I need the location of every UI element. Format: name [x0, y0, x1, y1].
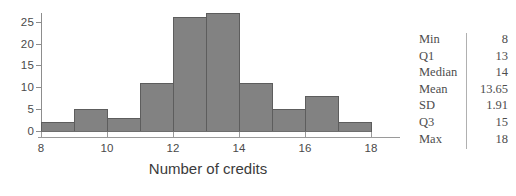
- stat-row: SD1.91: [415, 98, 511, 114]
- histogram-bar: [272, 109, 306, 132]
- x-tick-mark: [173, 132, 174, 137]
- x-axis-title: Number of credits: [38, 160, 378, 177]
- x-tick-label: 18: [364, 142, 377, 154]
- histogram-figure: 0510152025 81012141618 Number of credits…: [0, 0, 516, 196]
- stat-label: Median: [419, 65, 457, 80]
- stat-label: Mean: [419, 82, 447, 97]
- stat-label: Max: [419, 132, 442, 147]
- x-tick-mark: [305, 132, 306, 137]
- stat-row: Mean13.65: [415, 82, 511, 98]
- stat-row: Q315: [415, 115, 511, 131]
- x-tick-label: 16: [298, 142, 311, 154]
- histogram-chart: 0510152025 81012141618 Number of credits: [0, 0, 410, 196]
- summary-statistics-table: Min8Q113Median14Mean13.65SD1.91Q315Max18: [415, 32, 511, 152]
- x-tick-label: 12: [166, 142, 179, 154]
- stat-row: Max18: [415, 132, 511, 148]
- stat-value: 18: [496, 132, 509, 147]
- x-tick-label: 10: [100, 142, 113, 154]
- stat-value: 13: [496, 49, 509, 64]
- stat-value: 13.65: [480, 82, 508, 97]
- stat-row: Q113: [415, 49, 511, 65]
- x-tick-mark: [371, 132, 372, 137]
- stat-row: Min8: [415, 32, 511, 48]
- histogram-bar: [140, 83, 174, 132]
- stat-value: 8: [502, 32, 508, 47]
- histogram-bar: [305, 96, 339, 132]
- x-tick-mark: [107, 132, 108, 137]
- histogram-bars: [0, 0, 410, 140]
- stat-row: Median14: [415, 65, 511, 81]
- x-axis-line: [38, 137, 400, 138]
- stat-label: Q1: [419, 49, 434, 64]
- stat-label: Min: [419, 32, 440, 47]
- histogram-bar: [173, 17, 207, 132]
- stat-label: SD: [419, 98, 435, 113]
- histogram-bar: [74, 109, 108, 132]
- x-tick-mark: [41, 132, 42, 137]
- stat-value: 1.91: [486, 98, 508, 113]
- x-tick-label: 14: [232, 142, 245, 154]
- histogram-bar: [107, 118, 141, 132]
- bar-baseline: [41, 131, 371, 132]
- stat-value: 15: [496, 115, 509, 130]
- stat-label: Q3: [419, 115, 434, 130]
- x-tick-mark: [239, 132, 240, 137]
- stat-value: 14: [496, 65, 509, 80]
- histogram-bar: [239, 83, 273, 132]
- histogram-bar: [206, 13, 240, 132]
- x-tick-label: 8: [38, 142, 45, 154]
